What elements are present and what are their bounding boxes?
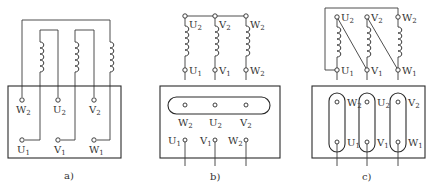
coil-c-w <box>398 27 402 57</box>
panel-a: W2 U2 V2 U1 V1 W1 a) <box>8 20 121 181</box>
label-b-coil-top-1: V2 <box>218 19 231 32</box>
motor-connection-diagram: W2 U2 V2 U1 V1 W1 a) U2 V2 W2 U1 V1 W2 <box>0 0 432 188</box>
coil-w <box>110 42 114 72</box>
node-c-u2 <box>335 15 339 19</box>
coil-u <box>40 42 44 72</box>
coil-v <box>75 42 79 72</box>
wire-u2-to-u-coil <box>40 30 58 97</box>
terminal-c-w2 <box>335 100 339 104</box>
label-c-coil-bottom-1: V1 <box>370 65 383 78</box>
terminal-u2 <box>56 98 60 102</box>
wire-w2-to-w-coil <box>22 20 110 97</box>
terminal-b-v1 <box>213 138 217 142</box>
label-c-bottom-1: V1 <box>376 137 389 150</box>
label-a-top-2: V2 <box>88 104 101 117</box>
label-b-top-0: W2 <box>178 117 193 130</box>
terminal-c-v2 <box>396 100 400 104</box>
wire-w-coil-to-w1 <box>97 72 110 140</box>
wire-v-coil-to-v1 <box>61 72 75 140</box>
terminal-w2 <box>20 98 24 102</box>
node-b-w1 <box>244 68 248 72</box>
wire-u-coil-to-u1 <box>25 72 40 140</box>
node-c-w1 <box>396 68 400 72</box>
label-c-coil-top-1: V2 <box>370 12 383 25</box>
node-b-u1 <box>183 68 187 72</box>
label-b-bottom-2: W2 <box>228 135 243 148</box>
label-b-coil-bottom-1: V1 <box>218 65 231 78</box>
caption-c: c) <box>362 171 372 182</box>
label-a-bottom-1: V1 <box>53 144 66 157</box>
label-a-top-0: W2 <box>16 104 31 117</box>
label-c-top-1: U2 <box>377 97 390 110</box>
label-c-coil-top-2: W2 <box>402 12 417 25</box>
caption-b: b) <box>210 171 220 182</box>
caption-a: a) <box>64 170 74 181</box>
label-c-bottom-0: U1 <box>347 137 360 150</box>
terminal-c-u1 <box>335 140 339 144</box>
terminal-b-w2 <box>183 103 187 107</box>
terminal-b-v2 <box>244 103 248 107</box>
coil-b-u <box>185 26 189 56</box>
label-a-bottom-2: W1 <box>89 144 104 157</box>
coil-b-v <box>215 26 219 56</box>
label-a-top-1: U2 <box>53 104 66 117</box>
node-b-v1 <box>213 68 217 72</box>
label-b-coil-top-0: U2 <box>189 19 202 32</box>
terminal-v2 <box>92 98 96 102</box>
label-c-coil-bottom-0: U1 <box>341 65 354 78</box>
label-b-coil-top-2: W2 <box>250 19 265 32</box>
node-c-u1 <box>335 68 339 72</box>
label-b-coil-bottom-2: W2 <box>250 65 265 78</box>
coil-c-u <box>337 27 341 57</box>
label-b-top-1: U2 <box>209 117 222 130</box>
coil-c-v <box>367 27 371 57</box>
label-a-bottom-0: U1 <box>17 144 30 157</box>
node-c-v2 <box>365 15 369 19</box>
terminal-b-u2 <box>213 103 217 107</box>
node-b-v2 <box>213 14 217 18</box>
terminal-w1 <box>92 138 96 142</box>
node-c-w2 <box>396 15 400 19</box>
terminal-v1 <box>56 138 60 142</box>
label-c-coil-top-0: U2 <box>341 12 354 25</box>
terminal-c-u2 <box>365 100 369 104</box>
terminal-b-u1 <box>183 138 187 142</box>
label-c-coil-bottom-2: W1 <box>402 65 417 78</box>
label-b-bottom-1: V1 <box>199 135 212 148</box>
terminal-c-v1 <box>365 140 369 144</box>
node-b-w2 <box>244 14 248 18</box>
node-c-v1 <box>365 68 369 72</box>
wire-v2-to-v-coil <box>75 30 94 97</box>
label-b-top-2: V2 <box>239 117 252 130</box>
node-b-u2 <box>183 14 187 18</box>
label-c-top-2: V2 <box>407 97 420 110</box>
terminal-b-w-out <box>244 138 248 142</box>
coil-b-w <box>246 26 250 56</box>
label-c-bottom-2: W1 <box>408 137 423 150</box>
panel-c: U2 V2 W2 U1 V1 W1 W2 U2 V2 U1 V1 W1 c) <box>312 8 425 182</box>
label-b-bottom-0: U1 <box>168 135 181 148</box>
terminal-c-w1 <box>396 140 400 144</box>
terminal-u1 <box>20 138 24 142</box>
panel-b: U2 V2 W2 U1 V1 W2 W2 U2 V2 U1 V1 W2 b) <box>160 14 280 182</box>
label-b-coil-bottom-0: U1 <box>189 65 202 78</box>
